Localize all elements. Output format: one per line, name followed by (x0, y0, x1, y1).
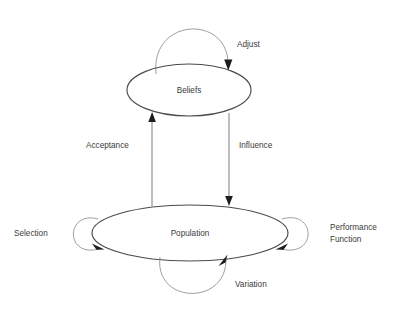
node-population: Population (92, 205, 288, 261)
edge-label-acceptance: Acceptance (86, 141, 129, 150)
node-label-beliefs: Beliefs (177, 86, 202, 95)
edge-adjust: Adjust (156, 29, 261, 74)
diagram-svg: Adjust Beliefs Acceptance Influence Sele… (0, 0, 401, 320)
edge-label-variation: Variation (235, 280, 267, 289)
edge-influence: Influence (225, 113, 272, 206)
selection-arrowhead (92, 244, 105, 250)
edge-label-influence: Influence (239, 141, 273, 150)
node-label-population: Population (171, 229, 210, 238)
edge-label-adjust: Adjust (237, 40, 260, 49)
variation-loop-arc (160, 257, 226, 293)
edge-performance-function: Performance Function (276, 218, 378, 250)
edge-label-performance-function-line2: Function (330, 235, 362, 244)
acceptance-arrowhead (148, 112, 156, 122)
node-beliefs: Beliefs (127, 64, 251, 116)
performance-function-arrowhead (276, 244, 289, 250)
edge-label-performance-function-line1: Performance (330, 223, 377, 232)
edge-label-selection: Selection (14, 229, 48, 238)
diagram-canvas: Adjust Beliefs Acceptance Influence Sele… (0, 0, 401, 320)
edge-selection: Selection (14, 218, 105, 250)
edge-acceptance: Acceptance (86, 112, 156, 206)
influence-arrowhead (225, 196, 233, 206)
